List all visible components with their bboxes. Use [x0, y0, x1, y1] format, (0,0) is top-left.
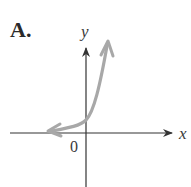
y-axis-label: y — [79, 22, 89, 41]
exponential-curve — [52, 46, 107, 131]
graph: x y 0 — [0, 0, 191, 187]
x-axis-label: x — [178, 124, 187, 143]
origin-label: 0 — [70, 138, 78, 155]
